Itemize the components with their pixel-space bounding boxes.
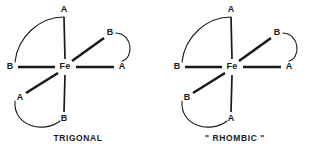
bond-bottom xyxy=(64,75,65,112)
ligand-label-upper-right: B xyxy=(103,28,117,37)
bond-top xyxy=(231,17,232,59)
bond-upper-right xyxy=(239,38,271,61)
chelate-arc-upper-right-to-right xyxy=(283,33,297,61)
ligand-label-lower-left: A xyxy=(13,93,27,102)
ligand-label-bottom: A xyxy=(224,114,238,123)
ligand-label-left: B xyxy=(170,62,184,71)
bond-lower-left xyxy=(26,73,58,93)
figure-caption-rhombic: " RHOMBIC " xyxy=(157,133,313,143)
chelate-arc-lower-left-to-bottom xyxy=(15,101,60,127)
bond-top xyxy=(64,17,65,59)
chelate-arc-lower-left-to-bottom xyxy=(182,101,227,127)
figure-caption-trigonal: TRIGONAL xyxy=(0,133,156,143)
bond-bottom xyxy=(231,75,232,112)
ligand-label-lower-left: B xyxy=(180,93,194,102)
bond-upper-right xyxy=(72,38,104,61)
ligand-label-bottom: B xyxy=(57,114,71,123)
bond-lower-left xyxy=(193,73,225,93)
ligand-label-upper-right: B xyxy=(270,28,284,37)
figure-trigonal: FeABBAAB TRIGONAL xyxy=(0,0,156,156)
chelate-arc-upper-right-to-right xyxy=(116,33,130,61)
ligand-label-top: A xyxy=(57,5,71,14)
chelate-arc-top-to-left xyxy=(15,17,64,62)
center-atom-label-fe: Fe xyxy=(222,62,242,71)
ligand-label-right: A xyxy=(115,62,129,71)
center-atom-label-fe: Fe xyxy=(55,62,75,71)
chelate-arc-top-to-left xyxy=(182,17,231,62)
figure-rhombic: FeABBABA " RHOMBIC " xyxy=(157,0,313,156)
ligand-label-right: A xyxy=(282,62,296,71)
diagram-canvas: FeABBAAB TRIGONAL FeABBABA " RHOMBIC " xyxy=(0,0,313,156)
ligand-label-left: B xyxy=(3,62,17,71)
ligand-label-top: A xyxy=(224,5,238,14)
